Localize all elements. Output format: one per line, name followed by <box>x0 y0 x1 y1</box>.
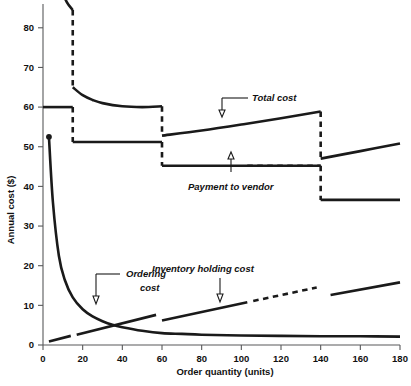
y-axis-ticks: 01020304050607080 <box>23 22 43 350</box>
x-tick-label: 80 <box>196 353 207 364</box>
ordering-cost-start-marker <box>46 134 52 140</box>
annotation-total-cost: Total cost <box>252 92 297 103</box>
y-tick-label: 60 <box>23 101 34 112</box>
y-tick-label: 20 <box>23 260 34 271</box>
inventory-holding-cost-segment-2 <box>162 302 247 320</box>
y-tick-label: 80 <box>23 22 34 33</box>
y-tick-label: 10 <box>23 300 34 311</box>
chart-figure: 01020304050607080 0204060801001201401601… <box>0 0 411 386</box>
inventory-holding-cost-segment-4 <box>331 282 400 295</box>
x-tick-label: 180 <box>392 353 408 364</box>
y-tick-label: 40 <box>23 181 34 192</box>
y-axis-title: Annual cost ($) <box>5 176 16 245</box>
ordering-arrowhead <box>93 296 99 304</box>
annotation-inventory-holding-cost: Inventory holding cost <box>152 263 255 274</box>
annotation-payment-to-vendor: Payment to vendor <box>188 181 275 192</box>
total-cost-segment-2 <box>162 111 321 135</box>
total-cost-arrowhead <box>219 110 225 117</box>
y-tick-label: 70 <box>23 62 34 73</box>
payment-arrowhead <box>228 152 234 159</box>
annotation-ordering-cost-line2: cost <box>140 282 160 293</box>
y-tick-label: 0 <box>29 339 34 350</box>
x-tick-label: 100 <box>233 353 249 364</box>
x-tick-label: 40 <box>117 353 128 364</box>
y-tick-label: 30 <box>23 220 34 231</box>
total-cost-segment-1 <box>73 87 162 107</box>
x-tick-label: 20 <box>77 353 88 364</box>
data-series <box>43 0 400 341</box>
x-tick-label: 60 <box>157 353 168 364</box>
x-tick-label: 120 <box>273 353 289 364</box>
chart-canvas: 01020304050607080 0204060801001201401601… <box>0 0 411 386</box>
total-cost-segment-0 <box>49 0 73 10</box>
x-axis-ticks: 020406080100120140160180 <box>40 345 408 364</box>
total-cost-segment-3 <box>321 144 400 159</box>
y-tick-label: 50 <box>23 141 34 152</box>
holding-arrowhead <box>217 294 223 302</box>
x-tick-label: 160 <box>352 353 368 364</box>
x-tick-label: 0 <box>40 353 45 364</box>
x-axis-title: Order quantity (units) <box>176 366 273 377</box>
x-tick-label: 140 <box>313 353 329 364</box>
inventory-holding-cost-segment-3 <box>253 288 316 301</box>
inventory-holding-cost-segment-0 <box>49 336 71 342</box>
